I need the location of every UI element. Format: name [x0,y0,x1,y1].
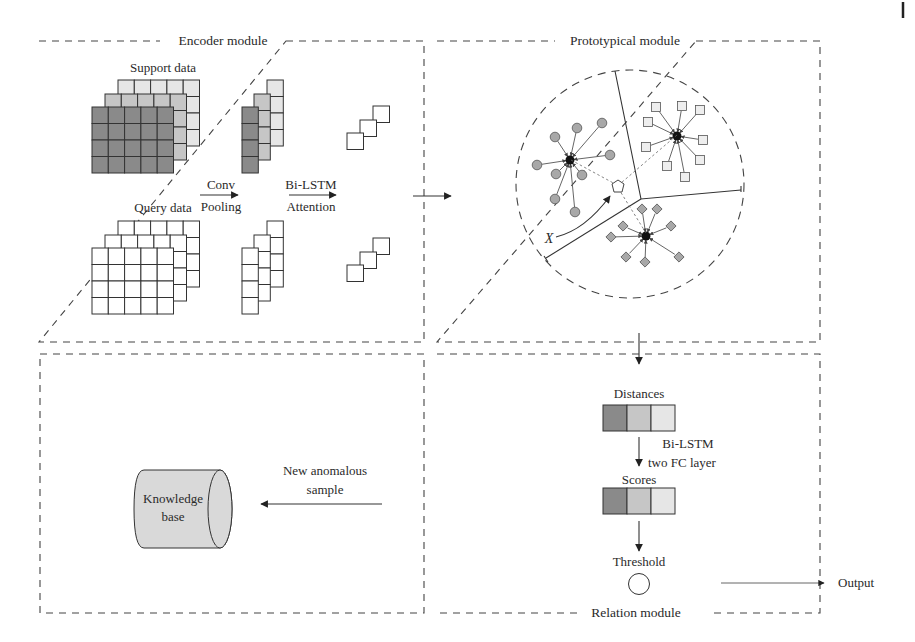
tensor-cell [141,265,157,282]
tensor-cell [157,140,173,157]
class2-sample-icon [696,106,705,115]
tensor-cell [92,140,108,157]
vector-cell [651,488,675,514]
threshold-node-icon [629,574,650,595]
prototype-icon [673,132,682,141]
support-to-prototype-arrow [680,114,697,133]
support-to-prototype-arrow [650,228,667,235]
bilstm-label: Bi-LSTM [285,177,337,192]
tensor-cell [242,265,258,282]
prototypical-module-title: Prototypical module [570,33,680,48]
vector-cell [603,405,627,431]
tensor-cell [108,248,124,265]
tensor-cell [157,107,173,124]
knowledge-base-module: Knowledge base New anomalous sample [40,354,424,613]
support-feature-map [242,80,283,173]
tensor-cell [157,298,173,315]
query-data-label: Query data [134,200,192,215]
support-to-prototype-arrow [643,214,646,232]
class3-sample-icon [618,221,628,231]
new-anomalous-sample-label-line2: sample [307,482,344,497]
output-label: Output [838,575,875,590]
tensor-cell [157,265,173,282]
support-to-prototype-arrow [542,161,566,165]
class2-sample-icon [678,102,687,111]
class2-sample-icon [652,103,661,112]
query-feature-map [242,221,283,314]
class1-sample-icon [550,132,560,142]
conv-label: Conv [207,177,236,192]
prototype-icon [566,156,575,165]
support-to-prototype-arrow [645,240,646,257]
support-to-prototype-arrow [649,238,674,254]
tensor-cell [157,248,173,265]
tensor-cell [108,107,124,124]
threshold-label: Threshold [613,554,666,569]
support-to-prototype-arrow [669,140,676,161]
support-to-prototype-arrow [629,239,643,253]
query-arrow-icon [556,196,610,237]
tensor-cell [141,298,157,315]
support-to-prototype-arrow [628,228,643,234]
prototypical-module: Prototypical module X [437,33,820,342]
attention-label: Attention [286,199,336,214]
support-to-prototype-arrow [572,163,578,171]
tensor-cell [141,248,157,265]
support-to-prototype-arrow [678,111,682,132]
support-to-prototype-arrow [653,124,674,134]
relation-module: Relation module Distances Bi-LSTM two FC… [437,354,875,620]
vector-cell [627,488,651,514]
tensor-cell [242,124,258,141]
tensor-cell [92,248,108,265]
tensor-cell [108,281,124,298]
support-to-prototype-arrow [571,133,576,156]
tensor-cell [108,157,124,174]
knowledge-base-label-line2: base [161,509,184,524]
tensor-cell [125,157,141,174]
pooling-label: Pooling [201,199,242,214]
tensor-cell [141,281,157,298]
tensor-cell [242,140,258,157]
support-data-label: Support data [130,60,196,75]
relation-bilstm-label: Bi-LSTM [662,436,714,451]
tensor-cell [157,281,173,298]
class3-sample-icon [674,252,684,262]
new-anomalous-sample-label-line1: New anomalous [283,463,367,478]
vector-cell [603,488,627,514]
support-to-prototype-arrow [557,164,569,195]
class2-sample-icon [663,162,672,171]
tensor-cell [108,298,124,315]
query-data-tensor [92,221,200,314]
tensor-cell [242,157,258,174]
class1-sample-icon [577,170,587,180]
tensor-cell [141,124,157,141]
tensor-cell [141,140,157,157]
scores-label: Scores [622,472,657,487]
tensor-cell [125,107,141,124]
tensor-cell [92,281,108,298]
two-fc-layer-label: two FC layer [648,455,717,470]
class3-sample-icon [652,204,662,214]
tensor-cell [242,107,258,124]
tensor-cell [108,124,124,141]
tensor-cell [92,157,108,174]
class3-sample-icon [640,257,650,267]
tensor-cell [92,124,108,141]
tensor-cell [157,124,173,141]
embedding-space-circle [516,70,744,298]
class2-sample-icon [699,136,708,145]
vector-cell [627,405,651,431]
vector-cell [651,405,675,431]
tensor-cell [157,157,173,174]
tensor-cell [141,157,157,174]
tensor-cell [125,140,141,157]
support-to-prototype-arrow [558,141,568,156]
support-embedding [347,106,390,150]
support-to-prototype-arrow [616,236,642,237]
tensor-cell [125,298,141,315]
class1-sample-icon [605,150,615,160]
tensor-cell [125,281,141,298]
knowledge-base-label-line1: Knowledge [143,491,203,506]
tensor-cell [92,265,108,282]
class2-sample-icon [681,173,690,182]
